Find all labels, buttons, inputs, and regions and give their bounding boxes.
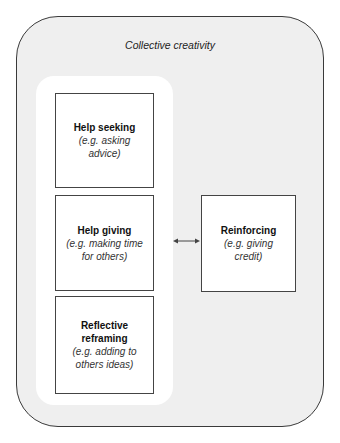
box-example: (e.g. making time for others) <box>64 237 145 263</box>
box-title: Help giving <box>78 224 132 237</box>
box-example: (e.g. adding to others ideas) <box>64 345 145 371</box>
reflective-reframing-box: Reflective reframing (e.g. adding to oth… <box>55 296 154 394</box>
box-example: (e.g. giving credit) <box>210 237 287 263</box>
box-title: Reflective reframing <box>64 319 145 345</box>
box-example: (e.g. asking advice) <box>64 134 145 160</box>
help-giving-box: Help giving (e.g. making time for others… <box>55 195 154 291</box>
bidirectional-arrow-icon <box>173 236 200 246</box>
box-title: Help seeking <box>74 121 136 134</box>
help-seeking-box: Help seeking (e.g. asking advice) <box>55 93 154 188</box>
reinforcing-box: Reinforcing (e.g. giving credit) <box>201 195 296 292</box>
container-title: Collective creativity <box>17 39 323 51</box>
box-title: Reinforcing <box>221 224 277 237</box>
